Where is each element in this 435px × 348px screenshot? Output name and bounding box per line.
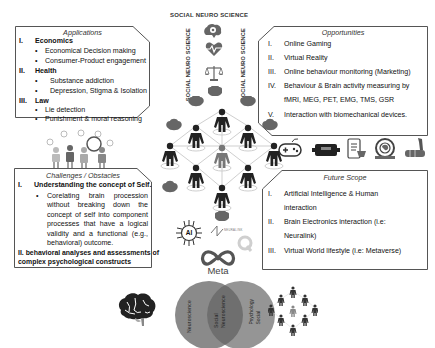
future-item-cont: Neuralink) [284, 232, 316, 241]
app-item: •Substance addiction [35, 77, 114, 86]
applications-box: Applications I.Economics •Economical Dec… [15, 26, 150, 118]
side-label-right: SOCIAL NEURO SCIENCE [240, 28, 246, 101]
online-shopping-icon [346, 138, 368, 160]
opp-item: II.Virtual Reality [268, 54, 328, 63]
venn-label-social-neuroscience: Social Neuroscience [213, 295, 226, 328]
people-network-small [268, 283, 318, 338]
app-item: •Lie detection [35, 106, 85, 115]
future-item: I.Artificial Intelligence & Human [268, 190, 378, 199]
app-item: •Consumer-Product engagement [35, 57, 146, 66]
challenge-section-behavioral-cont: complex psychological constructs [18, 258, 131, 266]
bullet: • [36, 192, 38, 201]
opp-item: V.Interaction with biomechanical devices… [268, 111, 407, 120]
opp-item: III.Online behaviour monitoring (Marketi… [268, 68, 411, 77]
neuralink-label: NEURALINK [224, 228, 243, 232]
venn-label-social-psychology: Social Psychology [248, 299, 261, 325]
future-scope-box: Future Scope I.Artificial Intelligence &… [262, 170, 428, 270]
brain-icon-large [117, 292, 157, 328]
app-section-economics: I.Economics [19, 37, 73, 46]
challenge-section-self: I.Understanding the concept of Self. [18, 181, 151, 190]
challenge-bullet-paragraph: Corelating brain procession without brea… [47, 192, 148, 248]
neuralink-mark-icon [210, 225, 224, 237]
future-item: III.Virtual World lifestyle (i.e: Metave… [268, 247, 401, 256]
app-section-health: II.Health [19, 67, 57, 76]
opp-item: I.Online Gaming [268, 40, 331, 49]
vr-headset-icon [312, 143, 340, 157]
challenge-section-behavioral: II. behavioral analyses and assessments … [18, 249, 159, 257]
ai-label: AI [176, 229, 202, 236]
opp-item: IV.Behaviour & Brain activity measuring … [268, 82, 409, 91]
app-item: •Depression, Stigma & Isolation [35, 87, 147, 96]
app-item: •Punishment & moral reasoning [35, 115, 142, 124]
meta-infinity-icon [200, 250, 236, 266]
future-item: II.Brain Electronics interaction (i.e: [268, 218, 386, 227]
future-scope-title: Future Scope [262, 173, 428, 182]
future-item-cont: interaction [284, 204, 317, 213]
venn-label-neuroscience: Neuroscience [186, 293, 192, 333]
diagram-title: SOCIAL NEURO SCIENCE [170, 12, 248, 18]
meta-label: Meta [200, 265, 236, 276]
quest-q-logo [237, 235, 253, 252]
challenges-box: Challenges / Obstacles I.Understanding t… [14, 168, 152, 268]
app-item: •Economical Decision making [35, 47, 136, 56]
scales-of-justice-icon [205, 65, 223, 81]
app-section-law: III.Law [19, 97, 49, 106]
brain-gear-icon [203, 23, 223, 39]
mri-scanner-icon [373, 138, 397, 160]
ai-chip-logo: AI [176, 220, 202, 246]
venn-diagram: Neuroscience Social Neuroscience Social … [170, 277, 280, 348]
heart-pulse-icon [205, 42, 223, 57]
bionic-arm-icon [402, 136, 426, 160]
brain-icon-small [208, 86, 222, 96]
applications-title: Applications [15, 28, 150, 37]
brain-icon-small [215, 211, 229, 221]
opp-item-cont: fMRI, MEG, PET, EMG, TMS, GSR [284, 96, 394, 105]
opportunities-title: Opportunities [258, 28, 428, 37]
crowd-with-speech-bubbles-illustration [42, 128, 122, 168]
meta-logo: Meta [200, 250, 236, 276]
challenges-title: Challenges / Obstacles [14, 171, 152, 180]
side-label-left: SOCIAL NEURO SCIENCE [185, 28, 191, 101]
